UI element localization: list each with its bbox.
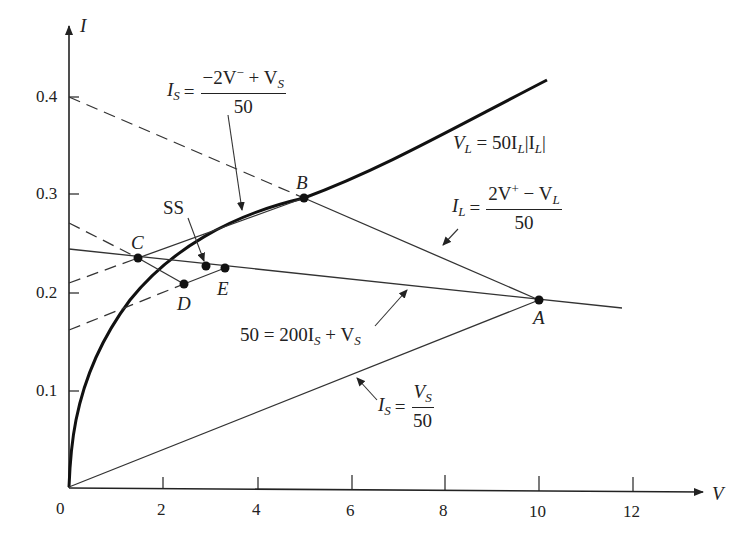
line-CD	[138, 258, 184, 284]
equation-source-neg: IS = −2V− + VS 50	[167, 66, 286, 116]
equation-source-thevenin: 50 = 200IS + VS	[240, 325, 361, 347]
y-tick-0.4: 0.4	[36, 88, 57, 105]
x-axis	[69, 475, 703, 492]
y-axis-label: I	[80, 16, 86, 35]
arrow-source-neg	[228, 115, 242, 210]
point-label-E: E	[217, 279, 229, 298]
line-CB-dashed	[69, 258, 138, 283]
point-SS	[202, 262, 211, 271]
point-label-C: C	[131, 233, 144, 252]
x-tick-10: 10	[529, 503, 546, 520]
diagram-canvas	[0, 0, 749, 544]
equation-load-line: IL = 2V+ − VL 50	[452, 182, 562, 232]
point-C	[134, 254, 143, 263]
equation-curve: VL = 50IL|IL|	[453, 133, 546, 155]
point-label-B: B	[296, 173, 308, 192]
x-axis-label: V	[712, 484, 724, 503]
origin-label: 0	[56, 500, 65, 517]
x-tick-6: 6	[346, 502, 355, 519]
point-B	[300, 194, 309, 203]
arrow-source-thevenin	[375, 290, 407, 326]
equation-source-ohm: IS = VS 50	[378, 382, 434, 430]
line-DE-dashed	[69, 284, 184, 330]
x-tick-12: 12	[623, 503, 640, 520]
y-tick-0.1: 0.1	[36, 382, 57, 399]
x-tick-8: 8	[439, 502, 448, 519]
x-tick-4: 4	[252, 501, 261, 518]
arrow-source-ohm	[357, 378, 377, 400]
point-label-D: D	[177, 294, 191, 313]
y-tick-0.2: 0.2	[36, 284, 57, 301]
point-label-SS: SS	[163, 198, 184, 217]
point-E	[221, 264, 230, 273]
point-D	[180, 280, 189, 289]
point-label-A: A	[533, 308, 545, 327]
point-A	[535, 296, 544, 305]
x-tick-2: 2	[157, 501, 166, 518]
y-tick-0.3: 0.3	[36, 185, 57, 202]
